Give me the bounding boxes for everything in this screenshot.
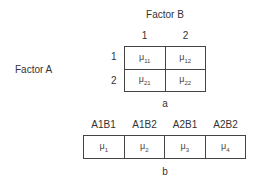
factor-a-level-2: 2 xyxy=(111,75,117,86)
two-by-two-means-table: μ11 μ12 μ21 μ22 xyxy=(124,46,206,92)
header-a2b2: A2B2 xyxy=(205,119,246,130)
cell-mu-1: μ1 xyxy=(84,136,125,159)
cell-mu-4: μ4 xyxy=(205,136,246,159)
cell-mu-3: μ3 xyxy=(165,136,206,159)
factor-b-level-2: 2 xyxy=(165,30,206,41)
factor-b-label: Factor B xyxy=(124,9,206,20)
cell-mu-21: μ21 xyxy=(125,69,166,92)
factor-a-level-1: 1 xyxy=(111,51,117,62)
factor-a-label: Factor A xyxy=(15,64,52,75)
cell-mu-12: μ12 xyxy=(165,47,206,70)
one-way-means-table: μ1 μ2 μ3 μ4 xyxy=(83,135,246,159)
header-a1b1: A1B1 xyxy=(83,119,124,130)
cell-mu-11: μ11 xyxy=(125,47,166,70)
caption-b: b xyxy=(124,166,206,177)
caption-a: a xyxy=(124,98,206,109)
cell-mu-2: μ2 xyxy=(124,136,165,159)
header-a2b1: A2B1 xyxy=(165,119,205,130)
header-a1b2: A1B2 xyxy=(124,119,165,130)
factor-b-level-1: 1 xyxy=(124,30,165,41)
cell-mu-22: μ22 xyxy=(165,69,206,92)
